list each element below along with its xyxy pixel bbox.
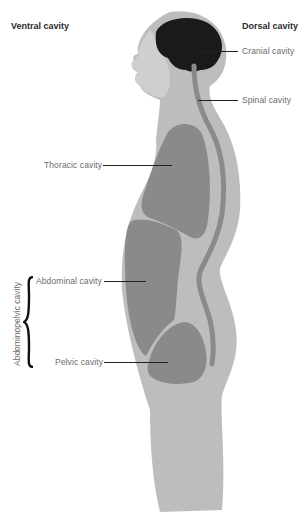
curly-brace-icon [23,276,35,368]
dorsal-cavity-heading: Dorsal cavity [242,21,298,31]
abdominal-cavity-label: Abdominal cavity [36,276,102,286]
spinal-leader-line [198,100,238,101]
body-cavities-illustration [0,0,304,521]
pelvic-leader-line [104,362,168,363]
spinal-cavity-label: Spinal cavity [242,95,291,105]
pelvic-cavity-label: Pelvic cavity [55,357,103,367]
abdominal-leader-line [104,281,146,282]
cranial-leader-line [196,51,238,52]
thoracic-leader-line [103,165,172,166]
abdominopelvic-cavity-label: Abdominopelvic cavity [12,282,22,366]
cranial-cavity-label: Cranial cavity [242,46,294,56]
ventral-cavity-heading: Ventral cavity [11,21,69,31]
thoracic-cavity-label: Thoracic cavity [44,160,102,170]
